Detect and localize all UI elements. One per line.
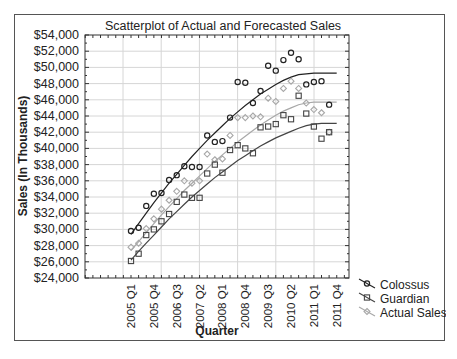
y-tick-label: $30,000 [34,222,79,236]
chart-frame: Scatterplot of Actual and Forecasted Sal… [14,14,445,341]
circle-marker [281,58,286,63]
trend-line-colossus [131,73,337,234]
trend-line-actual-sales [131,102,337,250]
diamond-marker [258,114,264,120]
circle-marker [167,177,172,182]
circle-marker [220,139,225,144]
square-marker [281,113,286,118]
legend-label: Guardian [380,292,429,306]
circle-marker [205,133,210,138]
legend: ColossusGuardianActual Sales [359,278,446,320]
diamond-marker [204,151,210,157]
square-marker [296,93,301,98]
x-tick-label: 2005 Q4 [148,283,160,328]
gridlines [85,35,349,278]
legend-label: Actual Sales [380,306,446,320]
y-tick-label: $46,000 [34,93,79,107]
y-tick-label: $44,000 [34,109,79,123]
square-marker [128,258,133,263]
y-tick-label: $54,000 [34,28,79,42]
circle-marker [296,57,301,62]
circle-marker [212,139,217,144]
y-tick-label: $26,000 [34,255,79,269]
square-marker [266,124,271,129]
diamond-marker [227,132,233,138]
x-axis-label: Quarter [195,324,239,338]
y-tick-label: $52,000 [34,44,79,58]
circle-marker [243,80,248,85]
diamond-marker [166,197,172,203]
y-tick-label: $50,000 [34,60,79,74]
square-marker [205,171,210,176]
diamond-marker [280,85,286,91]
x-tick-label: 2008 Q4 [239,283,251,328]
circle-marker [189,164,194,169]
square-marker [304,111,309,116]
x-tick-label: 2009 Q3 [262,284,274,328]
circle-marker [327,102,332,107]
circle-marker [250,100,255,105]
y-tick-label: $32,000 [34,206,79,220]
square-marker [319,136,324,141]
y-tick-label: $38,000 [34,158,79,172]
x-tick-label: 2007 Q2 [194,284,206,328]
circle-marker [258,88,263,93]
circle-marker [304,82,309,87]
y-tick-label: $24,000 [34,271,79,285]
y-tick-label: $28,000 [34,239,79,253]
x-tick-label: 2005 Q1 [125,284,137,328]
x-tick-label: 2010 Q2 [285,284,297,328]
circle-marker [151,191,156,196]
chart-title: Scatterplot of Actual and Forecasted Sal… [105,19,341,33]
y-axis-label: Sales (In Thousands) [16,96,30,217]
y-tick-label: $48,000 [34,77,79,91]
legend-label: Colossus [380,278,429,292]
data-points [128,50,332,263]
x-tick-label: 2011 Q4 [331,283,343,327]
diamond-marker [319,110,325,116]
y-tick-label: $36,000 [34,174,79,188]
y-tick-label: $34,000 [34,190,79,204]
x-tick-label: 2011 Q1 [308,284,320,327]
y-tick-label: $40,000 [34,141,79,155]
diamond-marker [296,85,302,91]
diamond-marker [174,188,180,194]
plot-area [85,35,349,278]
y-tick-label: $42,000 [34,125,79,139]
circle-marker [319,79,324,84]
circle-marker [144,203,149,208]
square-marker [288,117,293,122]
x-tick-label: 2008 Q1 [216,284,228,328]
x-tick-label: 2006 Q3 [171,284,183,328]
x-axis: 2005 Q12005 Q42006 Q32007 Q22008 Q12008 … [85,35,344,328]
scatter-chart: Scatterplot of Actual and Forecasted Sal… [15,15,446,342]
square-marker [167,211,172,216]
